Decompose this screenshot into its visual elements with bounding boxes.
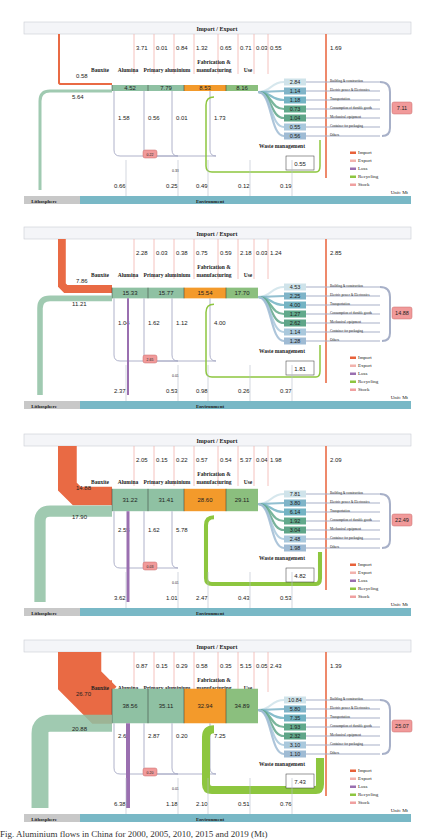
end-use-label: Transportation bbox=[330, 509, 350, 513]
stage-alumina: Alumina bbox=[118, 479, 139, 485]
legend-export: Export bbox=[358, 570, 372, 575]
stock-total-value: 7.11 bbox=[397, 105, 407, 111]
environment-label: Environment bbox=[196, 611, 225, 616]
legend-loss: Loss bbox=[358, 371, 368, 376]
unit-label: Unit: Mt bbox=[391, 395, 409, 400]
import-export-value: 0.75 bbox=[196, 250, 208, 256]
stage-value: 28.60 bbox=[197, 497, 213, 503]
legend-stock: Stock bbox=[358, 594, 370, 599]
stage-alumina: Alumina bbox=[118, 67, 139, 73]
end-use-label: Consumption of durable goods bbox=[330, 724, 373, 728]
end-use-value: 1.92 bbox=[290, 518, 301, 524]
lithosphere-value: 5.64 bbox=[72, 94, 84, 100]
loss-value: 1.58 bbox=[118, 115, 130, 121]
environment-flow-value: 0.26 bbox=[238, 388, 250, 394]
legend-recycling: Recycling bbox=[358, 586, 379, 591]
import-export-value: 0.84 bbox=[176, 45, 188, 51]
legend-export: Export bbox=[358, 776, 372, 781]
end-use-value: 2.48 bbox=[290, 536, 301, 542]
lithosphere-value: 20.88 bbox=[72, 726, 88, 732]
import-export-value: 0.65 bbox=[220, 45, 232, 51]
stage-bauxite: Bauxite bbox=[91, 685, 110, 691]
unit-label: Unit: Mt bbox=[391, 602, 409, 607]
loss-value: 1.62 bbox=[148, 527, 160, 533]
legend-loss: Loss bbox=[358, 578, 368, 583]
end-use-value: 2.25 bbox=[290, 293, 301, 299]
sankey-panel-3: Import / Export14.882.050.150.220.570.54… bbox=[0, 412, 430, 618]
stock-small-value: 0.22 bbox=[147, 153, 154, 157]
stage-bauxite: Bauxite bbox=[91, 479, 110, 485]
import-export-value: 1.39 bbox=[330, 663, 342, 669]
import-export-value: 0.59 bbox=[220, 250, 232, 256]
legend-recycling: Recycling bbox=[358, 792, 379, 797]
end-use-label: Container for packaging bbox=[330, 536, 363, 540]
stage-use: Use bbox=[244, 272, 253, 278]
loss-value: 1.73 bbox=[214, 115, 226, 121]
stage-value: 4.52 bbox=[124, 85, 136, 91]
end-use-value: 3.04 bbox=[290, 527, 301, 533]
stage-use: Use bbox=[244, 67, 253, 73]
import-export-value: 0.03 bbox=[256, 250, 268, 256]
import-bauxite-value: 0.58 bbox=[76, 73, 88, 79]
loss-value: 1.62 bbox=[148, 320, 160, 326]
end-use-value: 1.98 bbox=[290, 545, 301, 551]
stage-primary: Primary aluminium bbox=[144, 479, 191, 485]
loss-value: 2.87 bbox=[148, 733, 160, 739]
import-export-value: 2.09 bbox=[330, 457, 342, 463]
import-export-label: Import / Export bbox=[197, 26, 238, 32]
end-use-value: 1.18 bbox=[290, 97, 301, 103]
environment-flow-value: 0.37 bbox=[280, 388, 292, 394]
import-export-value: 2.28 bbox=[136, 250, 148, 256]
end-use-value: 2.62 bbox=[290, 320, 301, 326]
import-export-value: 2.85 bbox=[330, 250, 342, 256]
stage-use: Use bbox=[244, 479, 253, 485]
environment-flow-value: 3.62 bbox=[114, 595, 126, 601]
import-export-value: 0.71 bbox=[240, 45, 252, 51]
end-use-label: Building & construction bbox=[330, 697, 363, 701]
stage-value: 8.53 bbox=[199, 85, 211, 91]
environment-bar bbox=[80, 401, 411, 409]
stock-total-value: 14.88 bbox=[395, 310, 409, 316]
end-use-value: 2.32 bbox=[290, 733, 301, 739]
end-use-value: 3.80 bbox=[290, 500, 301, 506]
import-export-value: 0.54 bbox=[220, 457, 232, 463]
import-bauxite-value: 14.88 bbox=[76, 485, 92, 491]
import-export-label: Import / Export bbox=[197, 644, 238, 650]
stage-value: 35.11 bbox=[159, 703, 174, 709]
import-export-value: 0.03 bbox=[156, 250, 168, 256]
environment-label: Environment bbox=[196, 199, 225, 204]
environment-flow-value: 2.37 bbox=[114, 388, 126, 394]
loss-value: 0.56 bbox=[148, 115, 160, 121]
stage-value: 7.79 bbox=[160, 85, 172, 91]
import-export-value: 0.29 bbox=[176, 663, 188, 669]
environment-flow-value: 0.25 bbox=[166, 183, 178, 189]
loss-value: 0.20 bbox=[176, 733, 188, 739]
legend-import: Import bbox=[358, 150, 372, 155]
stage-fabrication-2: manufacturing bbox=[196, 272, 231, 278]
lithosphere-label: Lithosphere bbox=[31, 611, 58, 616]
end-use-label: Mechanical equipment bbox=[330, 733, 361, 737]
stage-fabrication-2: manufacturing bbox=[196, 67, 231, 73]
import-export-value: 0.22 bbox=[176, 457, 188, 463]
environment-flow-value: 2.10 bbox=[196, 801, 208, 807]
import-export-value: 0.38 bbox=[176, 250, 188, 256]
waste-value: 1.81 bbox=[294, 366, 306, 372]
end-use-label: Consumption of durable goods bbox=[330, 106, 373, 110]
import-export-value: 5.37 bbox=[240, 457, 252, 463]
environment-flow-value: 2.47 bbox=[196, 595, 208, 601]
stage-value: 8.16 bbox=[236, 85, 248, 91]
environment-label: Environment bbox=[196, 817, 225, 822]
stock-total-value: 22.49 bbox=[395, 517, 409, 523]
import-export-value: 0.57 bbox=[196, 457, 208, 463]
environment-bar bbox=[80, 814, 411, 822]
import-export-value: 5.15 bbox=[240, 663, 252, 669]
environment-flow-value: 6.38 bbox=[114, 801, 126, 807]
end-use-label: Others bbox=[330, 751, 340, 755]
end-use-value: 1.28 bbox=[290, 338, 301, 344]
end-use-value: 7.35 bbox=[290, 715, 301, 721]
waste-management-label: Waste management bbox=[259, 143, 305, 149]
legend-import: Import bbox=[358, 768, 372, 773]
legend-export: Export bbox=[358, 363, 372, 368]
legend-import: Import bbox=[358, 355, 372, 360]
stock-small-value: 2.65 bbox=[147, 358, 154, 362]
